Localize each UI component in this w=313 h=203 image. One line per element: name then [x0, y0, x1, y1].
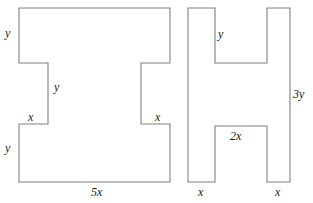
label-left-bottom-width: 5x	[91, 186, 102, 198]
label-left-notch-width: x	[28, 111, 33, 123]
left-figure-outline	[19, 8, 170, 182]
label-left-upper-height: y	[5, 27, 10, 39]
label-left-lower-height: y	[5, 142, 10, 154]
label-h-top-gap-height: y	[218, 28, 223, 40]
label-h-crossbar-width: 2x	[230, 130, 241, 142]
label-left-notch-height: y	[54, 81, 59, 93]
label-right-notch-width: x	[155, 111, 160, 123]
label-h-right-leg-width: x	[275, 186, 280, 198]
right-figure-outline	[188, 8, 290, 182]
label-h-right-height: 3y	[293, 88, 304, 100]
geometry-diagram	[0, 0, 313, 203]
figure-canvas: y y x x y 5x y 3y 2x x x	[0, 0, 313, 203]
label-h-left-leg-width: x	[198, 186, 203, 198]
